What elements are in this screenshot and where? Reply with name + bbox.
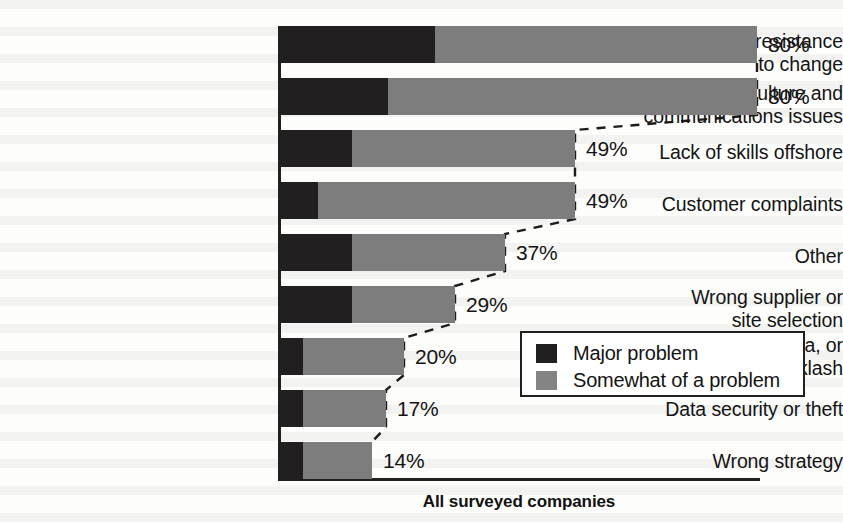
bar-segment-somewhat-8 xyxy=(303,390,386,427)
bar-segment-major-4 xyxy=(281,182,318,219)
bar-segment-major-2 xyxy=(281,78,388,115)
bar-value-label-8: 17% xyxy=(397,397,438,420)
bar-segment-somewhat-9 xyxy=(303,442,372,479)
bar-value-label-6: 29% xyxy=(466,293,507,316)
x-axis-title: All surveyed companies xyxy=(278,492,760,512)
chart-legend: Major problem Somewhat of a problem xyxy=(520,331,805,397)
bar-segment-somewhat-1 xyxy=(435,26,757,63)
bar-segment-somewhat-3 xyxy=(352,130,575,167)
bar-value-label-1: 80% xyxy=(768,33,809,56)
bar-segment-somewhat-5 xyxy=(352,234,505,271)
category-label-9: Wrong strategy xyxy=(575,450,843,473)
bar-value-label-5: 37% xyxy=(516,241,557,264)
legend-swatch-somewhat-icon xyxy=(536,371,557,390)
bar-value-label-2: 80% xyxy=(768,85,809,108)
chart-screenshot: Internal resistance to change 80% Cross-… xyxy=(0,0,843,523)
legend-label-somewhat: Somewhat of a problem xyxy=(573,369,780,391)
bar-segment-somewhat-6 xyxy=(352,286,455,323)
bar-segment-major-9 xyxy=(281,442,303,479)
legend-item-somewhat: Somewhat of a problem xyxy=(536,367,780,393)
bar-value-label-9: 14% xyxy=(383,449,424,472)
bar-segment-major-5 xyxy=(281,234,352,271)
bar-segment-major-8 xyxy=(281,390,303,427)
legend-label-major: Major problem xyxy=(573,342,698,364)
category-label-6: Wrong supplier or site selection xyxy=(575,286,843,332)
bar-segment-major-3 xyxy=(281,130,352,167)
category-label-8: Data security or theft xyxy=(575,398,843,421)
chart-plot-area: Internal resistance to change 80% Cross-… xyxy=(0,0,843,523)
bar-segment-major-1 xyxy=(281,26,435,63)
bar-segment-somewhat-2 xyxy=(388,78,757,115)
legend-swatch-major-icon xyxy=(536,344,557,363)
bar-segment-somewhat-4 xyxy=(318,182,575,219)
category-label-5: Other xyxy=(575,245,843,268)
bar-segment-major-6 xyxy=(281,286,352,323)
bar-segment-major-7 xyxy=(281,338,303,375)
bar-value-label-7: 20% xyxy=(415,345,456,368)
bar-value-label-4: 49% xyxy=(586,189,627,212)
bar-segment-somewhat-7 xyxy=(303,338,404,375)
bar-value-label-3: 49% xyxy=(586,137,627,160)
legend-item-major: Major problem xyxy=(536,340,698,366)
